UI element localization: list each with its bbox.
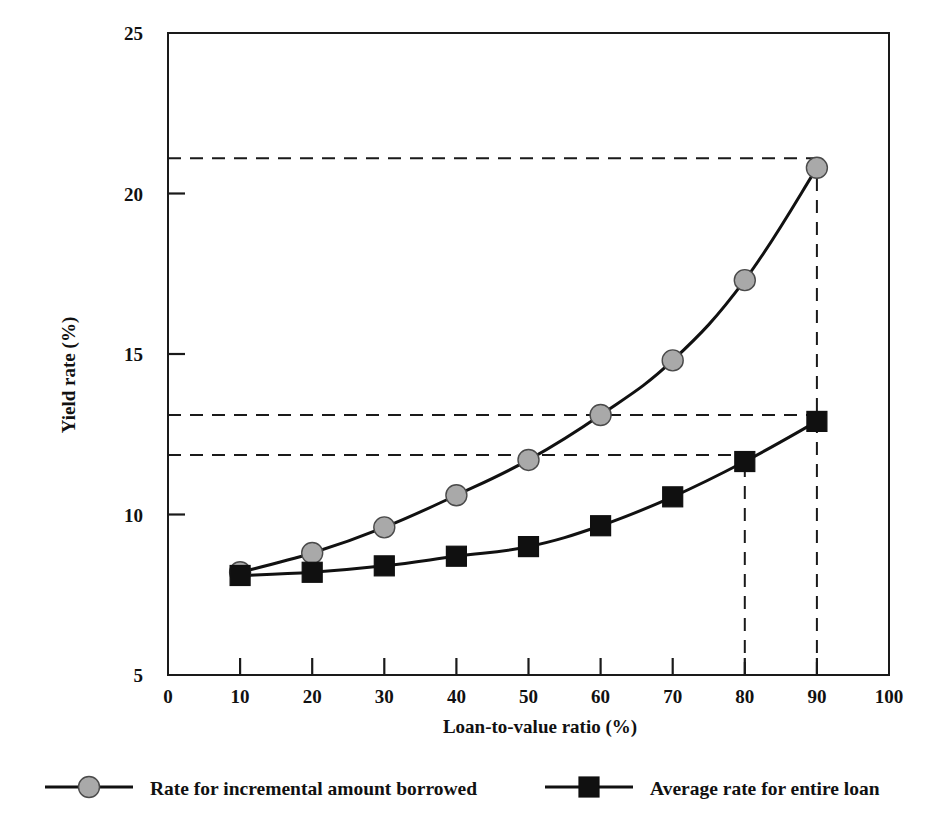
x-tick-label-70: 70	[663, 686, 682, 707]
legend-label-1: Rate for incremental amount borrowed	[150, 778, 477, 799]
x-tick-label-0: 0	[163, 686, 173, 707]
data-point-square-x90	[807, 411, 827, 431]
y-tick-label-10: 10	[124, 505, 143, 526]
y-tick-label-20: 20	[124, 184, 143, 205]
data-point-square-x50	[519, 537, 539, 557]
y-tick-label-5: 5	[134, 665, 144, 686]
x-tick-label-60: 60	[591, 686, 610, 707]
data-point-circle-x80	[734, 270, 755, 291]
y-tick-label-25: 25	[124, 23, 143, 44]
x-axis-title: Loan-to-value ratio (%)	[443, 716, 637, 738]
x-tick-label-10: 10	[231, 686, 250, 707]
data-point-circle-x20	[302, 543, 323, 564]
data-point-circle-x90	[806, 157, 827, 178]
legend-marker-square	[579, 777, 599, 797]
x-tick-label-90: 90	[807, 686, 826, 707]
x-tick-label-100: 100	[875, 686, 904, 707]
y-tick-label-15: 15	[124, 344, 143, 365]
legend-label-2: Average rate for entire loan	[650, 778, 880, 799]
data-point-circle-x30	[374, 517, 395, 538]
data-point-square-x20	[302, 562, 322, 582]
data-point-square-x30	[374, 556, 394, 576]
legend-marker-circle	[79, 777, 100, 798]
data-point-square-x10	[230, 565, 250, 585]
data-point-square-x80	[735, 452, 755, 472]
data-point-square-x40	[446, 546, 466, 566]
x-tick-label-50: 50	[519, 686, 538, 707]
legend-item-2[interactable]: Average rate for entire loan	[545, 777, 880, 799]
x-tick-label-40: 40	[447, 686, 466, 707]
yield-rate-line-chart: 510152025 0102030405060708090100 Loan-to…	[0, 0, 925, 816]
chart-container: 510152025 0102030405060708090100 Loan-to…	[0, 0, 925, 816]
data-point-square-x70	[663, 487, 683, 507]
data-point-circle-x60	[590, 404, 611, 425]
data-point-circle-x50	[518, 449, 539, 470]
data-point-circle-x70	[662, 350, 683, 371]
y-axis-title: Yield rate (%)	[58, 317, 80, 433]
chart-legend: Rate for incremental amount borrowedAver…	[45, 777, 880, 800]
x-tick-label-20: 20	[303, 686, 322, 707]
data-point-circle-x40	[446, 485, 467, 506]
data-point-square-x60	[591, 516, 611, 536]
x-tick-label-80: 80	[735, 686, 754, 707]
x-tick-label-30: 30	[375, 686, 394, 707]
